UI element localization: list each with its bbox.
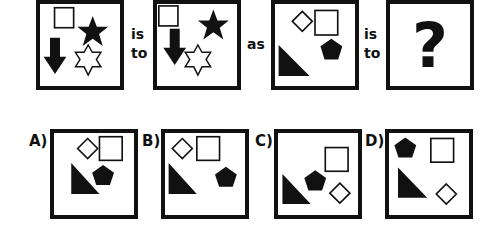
filled-right-triangle-icon: [398, 168, 427, 198]
filled-down-arrow-icon: [44, 38, 67, 74]
outline-square-icon: [99, 137, 122, 161]
option-c-label: C): [255, 132, 273, 150]
figure-1-shapes: [40, 4, 120, 86]
filled-pentagon-icon: [215, 167, 237, 187]
outline-square-icon: [325, 148, 348, 172]
stem-figure-3: [271, 0, 359, 90]
option-a[interactable]: [50, 129, 138, 219]
filled-down-arrow-icon: [163, 29, 186, 65]
option-d-label: D): [365, 132, 384, 150]
filled-star-icon: [198, 10, 229, 40]
outline-diamond-icon: [436, 184, 456, 204]
option-d[interactable]: [385, 129, 473, 219]
outline-hexagram-icon: [75, 45, 100, 75]
filled-pentagon-icon: [92, 165, 114, 185]
filled-pentagon-icon: [320, 39, 342, 60]
outline-diamond-icon: [78, 139, 98, 159]
option-a-shapes: [54, 133, 134, 215]
filled-star-icon: [77, 16, 108, 46]
filled-right-triangle-icon: [279, 45, 310, 76]
filled-pentagon-icon: [304, 170, 326, 190]
connector-to-2: to: [364, 44, 380, 62]
figure-2-shapes: [157, 4, 237, 86]
connector-as: as: [247, 35, 265, 53]
option-b-label: B): [142, 132, 160, 150]
stem-figure-2: [153, 0, 241, 90]
outline-diamond-icon: [330, 183, 350, 203]
outline-square-icon: [431, 138, 454, 162]
option-b[interactable]: [161, 129, 249, 219]
outline-square-icon: [55, 8, 74, 28]
filled-pentagon-icon: [394, 138, 416, 158]
outline-diamond-icon: [172, 139, 192, 159]
option-a-label: A): [29, 132, 47, 150]
outline-square-icon: [159, 6, 178, 26]
connector-is-2: is: [364, 25, 377, 43]
stem-figure-1: [36, 0, 124, 90]
question-mark-icon: ?: [390, 4, 470, 86]
filled-right-triangle-icon: [169, 163, 197, 194]
outline-square-icon: [315, 10, 338, 35]
option-c-shapes: [278, 133, 358, 215]
option-d-shapes: [389, 133, 469, 215]
outline-square-icon: [197, 137, 220, 161]
outline-diamond-icon: [292, 11, 312, 31]
connector-is-1: is: [131, 25, 144, 43]
option-b-shapes: [165, 133, 245, 215]
option-c[interactable]: [274, 129, 362, 219]
stem-figure-4-unknown: ?: [386, 0, 474, 90]
figure-3-shapes: [275, 4, 355, 86]
connector-to-1: to: [131, 44, 147, 62]
outline-hexagram-icon: [185, 45, 210, 75]
